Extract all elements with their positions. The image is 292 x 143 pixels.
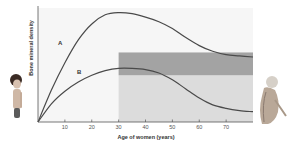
x-tick-label: 20	[89, 124, 95, 130]
curve-a-label: A	[58, 40, 63, 46]
y-axis-label: Bone mineral density	[28, 19, 34, 76]
x-tick-label: 50	[169, 124, 175, 130]
elderly-woman-figure-icon	[260, 76, 286, 124]
x-tick-label: 60	[196, 124, 202, 130]
x-tick-label: 40	[142, 124, 148, 130]
curve-b-label: B	[77, 69, 82, 75]
x-tick-label: 70	[223, 124, 229, 130]
x-axis-label: Age of women (years)	[117, 134, 174, 140]
x-tick-label: 30	[116, 124, 122, 130]
shaded-band-light	[119, 75, 253, 122]
young-woman-figure-icon	[10, 74, 22, 118]
bone-density-chart: 10203040506070 Age of women (years) Bone…	[0, 0, 292, 143]
x-tick-label: 10	[62, 124, 68, 130]
